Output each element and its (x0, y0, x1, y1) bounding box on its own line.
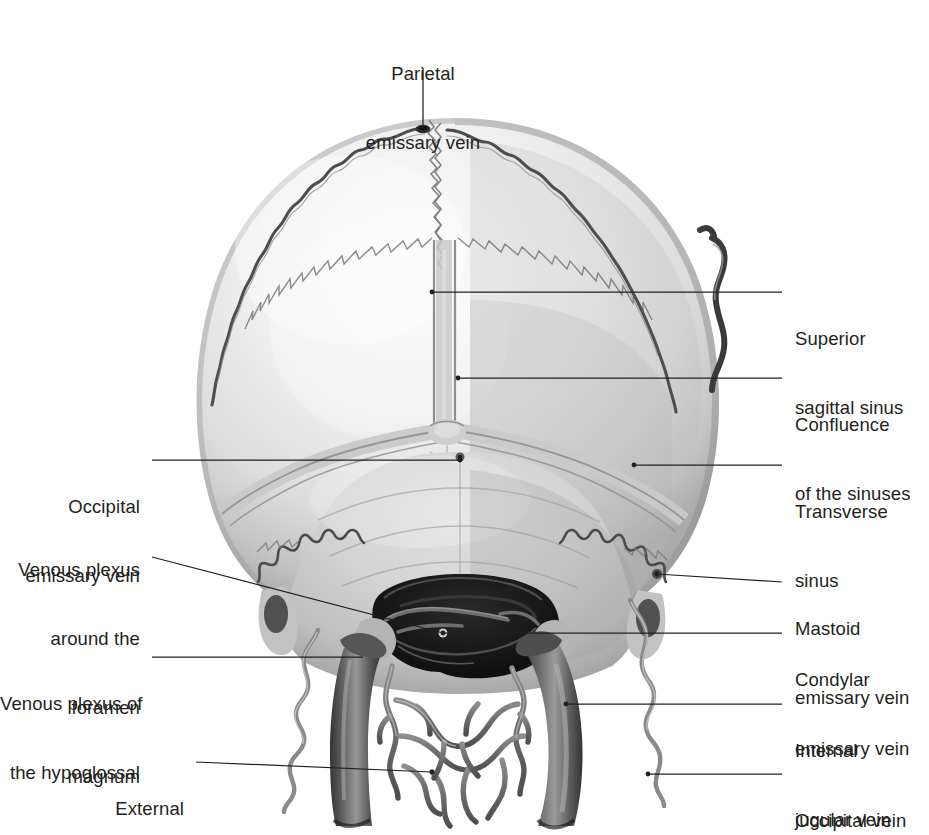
anatomical-figure: Parietal emissary vein Superior sagittal… (0, 0, 929, 835)
label-line: emissary vein (323, 131, 523, 154)
label-line: Occipital vein (795, 809, 929, 832)
leader-mastoid-emissary-vein (657, 574, 782, 582)
label-line: Internal (795, 739, 929, 762)
confluence-of-sinuses (428, 419, 466, 445)
label-line: External (0, 797, 184, 820)
label-line: Venous plexus of (0, 692, 140, 715)
label-parietal-emissary-vein: Parietal emissary vein (323, 16, 523, 200)
label-occipital-vein: Occipital vein (795, 763, 929, 835)
label-line: Venous plexus (0, 558, 140, 581)
label-line: Parietal (323, 62, 523, 85)
label-line: Confluence (795, 413, 929, 436)
leader-external-vertebral-plexus (196, 762, 432, 772)
label-line: Condylar (795, 668, 929, 691)
label-line: Transverse (795, 500, 929, 523)
label-line: Superior (795, 327, 929, 350)
label-external-vertebral-venous-plexus: External vertebral venous plexus (0, 751, 184, 835)
superior-sagittal-sinus (434, 240, 455, 438)
internal-jugular-vein-left (330, 648, 382, 826)
